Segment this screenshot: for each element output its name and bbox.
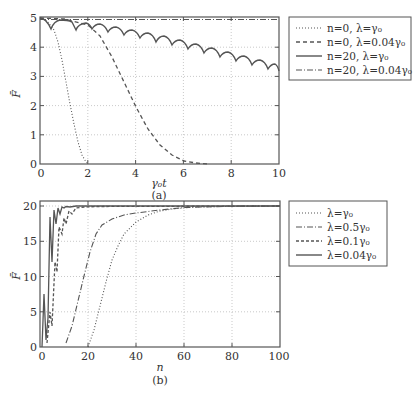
panel-b-ylabel: F̄ (10, 272, 23, 281)
panel-a-ytick: 1 (30, 129, 37, 142)
panel-a-legend: n=0, λ=γ₀ n=0, λ=0.04γ₀ n=20, λ=γ₀ n=20,… (289, 17, 412, 80)
panel-b-xtick: 20 (81, 350, 95, 363)
panel-b-xtick: 60 (177, 350, 191, 363)
series-n0-lambda-gamma0 (40, 18, 89, 164)
panel-a-ytick: 3 (30, 70, 37, 83)
panel-a-xtick: 2 (84, 167, 91, 180)
panel-a-ytick: 2 (30, 100, 37, 113)
panel-a-xtick: 0 (38, 167, 45, 180)
panel-b-xlabel: n (156, 361, 163, 374)
legend-label: n=20, λ=0.04γ₀ (327, 64, 412, 76)
panel-b-xtick: 40 (129, 350, 143, 363)
legend-label: λ=0.5γ₀ (327, 221, 370, 233)
panel-b-tickmarks (40, 201, 280, 347)
panel-a-xtick: 6 (180, 167, 187, 180)
panel-b-xtick: 100 (269, 350, 290, 363)
legend-label: λ=γ₀ (327, 207, 353, 219)
panel-a-caption: (a) (151, 189, 166, 202)
panel-b: 0 5 10 15 20 0 20 40 60 80 100 n F̄ (b) … (10, 200, 387, 387)
panel-a-ylabel: F̄ (10, 90, 23, 99)
panel-b-caption: (b) (152, 374, 168, 387)
panel-b-ytick: 10 (23, 271, 37, 284)
panel-a-xtick: 10 (272, 167, 286, 180)
legend-label: n=0, λ=0.04γ₀ (327, 36, 405, 48)
panel-a-axes-frame (40, 17, 279, 164)
legend-label: λ=0.1γ₀ (327, 235, 370, 247)
panel-a-ytick: 4 (30, 41, 37, 54)
panel-b-ytick: 15 (23, 235, 37, 248)
panel-b-ytick: 20 (23, 200, 37, 213)
panel-a-xtick: 8 (228, 167, 235, 180)
series-lambda-0.1gamma0 (47, 206, 280, 343)
panel-b-xtick: 0 (39, 350, 46, 363)
panel-b-xtick: 80 (225, 350, 239, 363)
panel-b-ytick: 0 (30, 341, 37, 354)
panel-b-axes-frame (40, 201, 280, 347)
legend-label: n=0, λ=γ₀ (327, 22, 382, 34)
series-n20-lambda-gamma0 (40, 18, 279, 71)
panel-a-ytick: 0 (30, 158, 37, 171)
panel-b-ytick: 5 (30, 306, 37, 319)
panel-b-legend: λ=γ₀ λ=0.5γ₀ λ=0.1γ₀ λ=0.04γ₀ (289, 201, 387, 266)
panel-a-ytick: 5 (30, 12, 37, 25)
panel-a-grid (40, 17, 279, 164)
panel-a-tickmarks (40, 17, 279, 164)
series-lambda-0.5gamma0 (66, 206, 280, 343)
panel-a-series (40, 18, 279, 164)
panel-b-grid (40, 201, 280, 347)
panel-a: 0 1 2 3 4 5 0 2 4 6 8 10 γ₀t F̄ (a) n=0,… (10, 12, 412, 202)
legend-label: n=20, λ=γ₀ (327, 50, 389, 62)
legend-label: λ=0.04γ₀ (327, 249, 376, 261)
series-n0-lambda-0.04gamma0 (40, 18, 208, 164)
panel-a-xtick: 4 (132, 167, 139, 180)
figure: 0 1 2 3 4 5 0 2 4 6 8 10 γ₀t F̄ (a) n=0,… (0, 0, 416, 398)
